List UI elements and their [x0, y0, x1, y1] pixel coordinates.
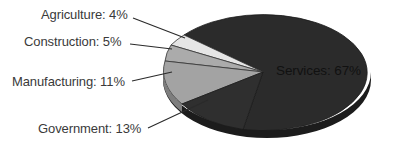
- leader-agriculture: [133, 18, 185, 38]
- label-services: Services: 67%: [276, 63, 361, 78]
- label-agriculture: Agriculture: 4%: [41, 7, 128, 22]
- label-government: Government: 13%: [38, 121, 141, 136]
- leader-construction: [130, 44, 172, 49]
- label-manufacturing: Manufacturing: 11%: [12, 74, 125, 89]
- label-construction: Construction: 5%: [24, 34, 121, 49]
